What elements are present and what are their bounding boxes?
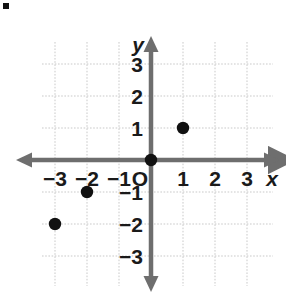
y-positive-arrow-icon [144, 36, 159, 52]
y-tick-1: 1 [131, 117, 143, 140]
grid-lines [42, 42, 273, 286]
data-point-1-1 [177, 122, 189, 134]
y-negative-arrow-icon [144, 276, 159, 292]
data-point--2--1 [81, 186, 93, 198]
data-point-origin [145, 154, 157, 166]
coordinate-plane-svg: −3 −2 −1 1 2 3 3 2 1 −1 −2 −3 O x y [0, 0, 286, 304]
x-negative-arrow-icon [16, 153, 32, 168]
origin-label: O [132, 167, 148, 190]
axes [24, 48, 272, 284]
x-axis-label: x [265, 167, 279, 190]
data-point--3--2 [49, 218, 61, 230]
y-tick-3: 3 [131, 53, 143, 76]
x-positive-arrow-icon [264, 153, 280, 168]
y-tick--2: −2 [119, 213, 143, 236]
y-tick--3: −3 [119, 245, 143, 268]
x-tick-3: 3 [241, 167, 253, 190]
y-axis-label: y [131, 33, 145, 56]
coordinate-plane-figure: −3 −2 −1 1 2 3 3 2 1 −1 −2 −3 O x y [0, 0, 286, 304]
x-tick-1: 1 [177, 167, 189, 190]
y-tick-2: 2 [131, 85, 143, 108]
x-tick--3: −3 [43, 167, 67, 190]
bullet-square-icon [3, 3, 9, 9]
x-tick-2: 2 [209, 167, 221, 190]
